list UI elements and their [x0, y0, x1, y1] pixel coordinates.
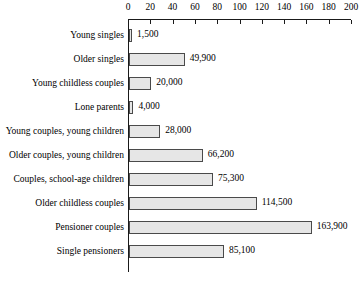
bar-value-label: 163,900: [317, 220, 348, 232]
bar-container: [129, 149, 203, 164]
category-label: Older couples, young children: [9, 149, 124, 161]
bar-row: Pensioner couples163,900: [0, 218, 363, 242]
bar-value-label: 75,300: [218, 172, 244, 184]
category-label: Young singles: [70, 29, 124, 41]
x-axis-tick-label: 40: [161, 2, 185, 13]
x-axis-tick-mark: [306, 20, 307, 24]
bar-container: [129, 77, 151, 92]
x-axis-tick-mark: [262, 20, 263, 24]
bar: [129, 29, 132, 42]
bar-container: [129, 125, 160, 140]
bar-container: [129, 245, 224, 260]
x-axis-tick-label: 160: [294, 2, 318, 13]
bar: [129, 53, 185, 66]
x-axis-tick-label: 120: [250, 2, 274, 13]
x-axis-tick-mark: [284, 20, 285, 24]
x-axis-tick-mark: [329, 20, 330, 24]
x-axis-tick-mark: [240, 20, 241, 24]
category-label: Couples, school-age children: [13, 173, 124, 185]
bar-container: [129, 53, 185, 68]
x-axis-tick-label: 200: [339, 2, 363, 13]
bar-value-label: 4,000: [138, 100, 159, 112]
bar-row: Couples, school-age children75,300: [0, 170, 363, 194]
bar-value-label: 114,500: [262, 196, 293, 208]
category-label: Older singles: [74, 53, 124, 65]
bar-value-label: 49,900: [190, 52, 216, 64]
bar: [129, 125, 160, 138]
category-label: Young childless couples: [32, 77, 124, 89]
bar-row: Older singles49,900: [0, 50, 363, 74]
category-label: Young couples, young children: [6, 125, 124, 137]
x-axis-tick-label: 20: [138, 2, 162, 13]
x-axis-tick-label: 80: [205, 2, 229, 13]
bar-row: Older childless couples114,500: [0, 194, 363, 218]
bar-row: Young couples, young children28,000: [0, 122, 363, 146]
x-axis-tick-label: 140: [272, 2, 296, 13]
category-label: Older childless couples: [35, 197, 124, 209]
bar-rows: Young singles1,500Older singles49,900You…: [0, 26, 363, 266]
bar-container: [129, 101, 133, 116]
x-axis-tick-mark: [217, 20, 218, 24]
x-axis-tick-mark: [351, 20, 352, 24]
bar-row: Lone parents4,000: [0, 98, 363, 122]
bar-row: Single pensioners85,100: [0, 242, 363, 266]
bar-row: Young childless couples20,000: [0, 74, 363, 98]
x-axis-tick-mark: [195, 20, 196, 24]
bar-container: [129, 173, 213, 188]
bar-container: [129, 29, 132, 44]
bar-row: Older couples, young children66,200: [0, 146, 363, 170]
bar-container: [129, 197, 257, 212]
x-axis-tick-mark: [128, 20, 129, 24]
bar-value-label: 85,100: [229, 244, 255, 256]
bar-container: [129, 221, 312, 236]
bar: [129, 197, 257, 210]
x-axis-tick-label: 0: [116, 2, 140, 13]
bar: [129, 173, 213, 186]
bar: [129, 77, 151, 90]
bar-row: Young singles1,500: [0, 26, 363, 50]
category-label: Pensioner couples: [55, 221, 124, 233]
bar-chart: 020406080100120140160180200 Young single…: [0, 0, 363, 286]
category-label: Lone parents: [75, 101, 124, 113]
bar-value-label: 28,000: [165, 124, 191, 136]
x-axis-tick-label: 180: [317, 2, 341, 13]
bar: [129, 221, 312, 234]
x-axis-tick-label: 100: [228, 2, 252, 13]
category-label: Single pensioners: [57, 245, 124, 257]
x-axis-tick-label: 60: [183, 2, 207, 13]
x-axis-tick-mark: [173, 20, 174, 24]
x-axis: 020406080100120140160180200: [0, 0, 363, 26]
bar: [129, 149, 203, 162]
bar-value-label: 1,500: [137, 28, 158, 40]
x-axis-tick-mark: [150, 20, 151, 24]
bar-value-label: 20,000: [156, 76, 182, 88]
bar: [129, 101, 133, 114]
bar-value-label: 66,200: [208, 148, 234, 160]
bar: [129, 245, 224, 258]
